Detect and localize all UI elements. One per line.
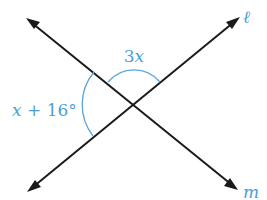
line-label-l: ℓ: [243, 7, 250, 27]
angle-arc-top: [108, 70, 160, 82]
angle-arc-left: [82, 72, 94, 136]
angle-label-top: 3x: [124, 46, 145, 66]
line-label-m: m: [243, 182, 259, 200]
intersecting-lines-diagram: 3x x + 16° ℓ m: [0, 0, 267, 200]
angle-label-left: x + 16°: [12, 100, 77, 120]
